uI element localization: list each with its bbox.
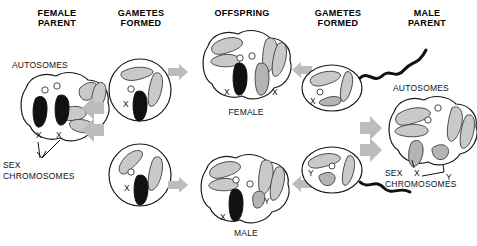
offspring-male-x-mark: X — [220, 212, 226, 222]
offspring-male-y-mark: Y — [264, 196, 270, 206]
sperm-tail — [360, 50, 426, 79]
autosome-dot — [42, 87, 48, 93]
leader-line — [422, 172, 444, 176]
offspring-female-x1-mark: X — [224, 87, 230, 97]
male-parent-y-mark: Y — [446, 172, 452, 182]
leader-line — [42, 140, 60, 158]
autosome-dot — [233, 177, 239, 183]
offspring-male-cell: X Y — [201, 155, 289, 223]
autosome-dot — [435, 105, 441, 111]
male-gamete-top-mark: X — [310, 96, 316, 106]
sex-chromosome-x — [133, 91, 147, 121]
maternal-x-chromosome — [229, 189, 243, 221]
sex-chromosome-x2 — [55, 95, 69, 125]
male-parent-cell: X Y — [389, 97, 477, 182]
sex-chromosome-y — [432, 145, 449, 160]
autosome-dot — [425, 117, 431, 123]
autosome-dot — [237, 55, 243, 61]
offspring-female-cell: X X — [203, 31, 291, 99]
meiosis-arrow-male — [360, 116, 382, 162]
female-gamete-bottom: X — [109, 144, 171, 206]
fertilization-arrow-female-to-female-offspring — [168, 64, 188, 80]
autosome-dot — [54, 83, 60, 89]
male-gamete-bottom-mark: Y — [308, 168, 314, 178]
autosome-dot — [317, 89, 323, 95]
sex-chromosome-x — [134, 175, 148, 205]
autosome-dot — [329, 163, 335, 169]
female-gamete-top-mark: X — [123, 99, 129, 109]
male-parent-x-mark: X — [414, 168, 420, 178]
autosome-dot — [128, 86, 134, 92]
leader-arrowhead — [37, 151, 46, 158]
diagram-canvas: X X X X — [0, 0, 477, 246]
sperm-tail — [360, 182, 410, 192]
autosome-dot — [249, 53, 255, 59]
autosome-dot — [128, 169, 134, 175]
male-gamete-bottom: Y — [302, 147, 410, 193]
paternal-x-chromosome — [255, 63, 269, 95]
female-parent-x1-mark: X — [36, 130, 42, 140]
offspring-female-x2-mark: X — [272, 87, 278, 97]
leader-line — [443, 164, 444, 172]
inheritance-diagram: FEMALE PARENT GAMETES FORMED OFFSPRING G… — [0, 0, 477, 246]
autosome-dot — [247, 181, 253, 187]
female-parent-x2-mark: X — [56, 130, 62, 140]
female-gamete-top: X — [109, 59, 171, 121]
maternal-x-chromosome — [233, 63, 247, 95]
female-gamete-bottom-mark: X — [124, 183, 130, 193]
